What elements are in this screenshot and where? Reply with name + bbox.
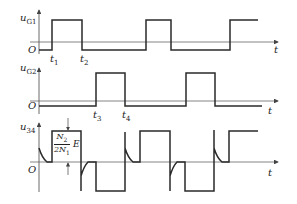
t2-marker: t2	[80, 54, 89, 67]
u34-waveform	[39, 130, 258, 191]
panel-ug1	[30, 10, 278, 54]
u34-label: u34	[20, 122, 35, 135]
t3-marker: t3	[93, 110, 102, 123]
amplitude-e-label: E	[73, 140, 80, 149]
ug2-t-axis-label: t	[268, 106, 272, 116]
u34-origin-label: O	[28, 165, 36, 175]
ug1-t-axis-label: t	[274, 45, 278, 55]
timing-diagram-canvas	[0, 0, 297, 204]
ug1-origin-label: O	[28, 45, 36, 55]
u34-t-axis-label: t	[268, 168, 272, 178]
ug2-origin-label: O	[28, 101, 36, 111]
panel-ug2	[30, 68, 278, 114]
ug1-waveform	[39, 20, 258, 50]
ug2-label: uG2	[20, 63, 37, 76]
t4-marker: t4	[122, 110, 131, 123]
t1-marker: t1	[50, 54, 59, 67]
ug1-label: uG1	[20, 13, 37, 26]
amplitude-fraction: N2 2N1	[54, 133, 70, 155]
